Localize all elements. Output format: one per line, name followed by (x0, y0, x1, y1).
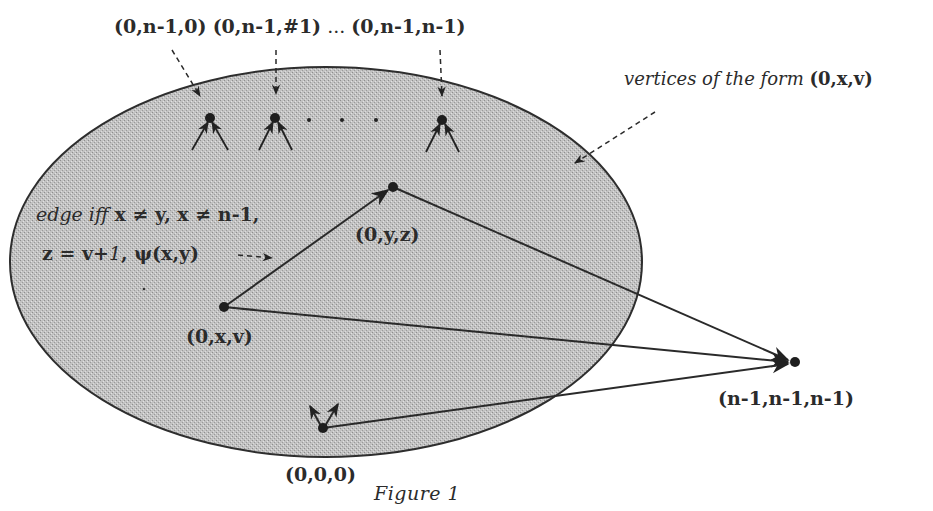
stray-dot (143, 288, 146, 291)
condition-math-2c: , ψ(x,y) (121, 242, 199, 264)
graph-figure: (0,n-1,0) (0,n-1,#1) ... (0,n-1,n-1) ver… (0, 0, 933, 511)
condition-math-2a: z = v+ (42, 242, 109, 264)
label-node-origin: (0,0,0) (285, 465, 356, 484)
condition-math-2b: 1 (109, 242, 121, 264)
label-top-first: (0,n-1,0) (114, 15, 207, 37)
edge-condition-line1: edge iff x ≠ y, x ≠ n-1, (36, 205, 259, 224)
node-yz (388, 182, 398, 192)
node-sink (790, 357, 800, 367)
condition-iff-text: edge iff (36, 203, 114, 225)
condition-math-1: x ≠ y, x ≠ n-1, (114, 203, 259, 225)
region-label-text: vertices of the form (624, 68, 809, 89)
label-top-ellipsis: ... (327, 15, 345, 37)
label-node-sink: (n-1,n-1,n-1) (718, 389, 854, 408)
edge-condition-line2: z = v+1, ψ(x,y) (42, 244, 199, 263)
figure-caption: Figure 1 (374, 484, 460, 503)
region-label: vertices of the form (0,x,v) (624, 70, 873, 88)
region-label-tuple: (0,x,v) (809, 68, 872, 89)
label-node-yz: (0,y,z) (355, 225, 419, 244)
label-top-last: (0,n-1,n-1) (351, 15, 465, 37)
label-top-second: (0,n-1,#1) (213, 15, 322, 37)
label-top-row: (0,n-1,0) (0,n-1,#1) ... (0,n-1,n-1) (114, 17, 466, 36)
node-xv (219, 302, 229, 312)
node-origin (318, 423, 328, 433)
label-node-xv: (0,x,v) (186, 327, 253, 346)
